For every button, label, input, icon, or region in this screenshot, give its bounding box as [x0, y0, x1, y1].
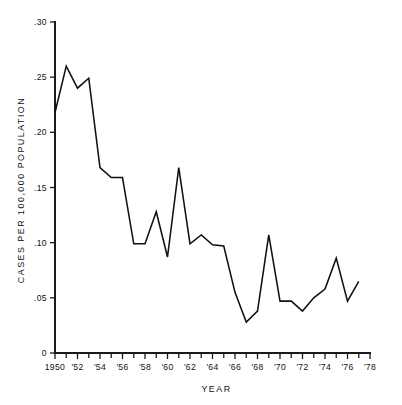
x-axis-tick-label: '60	[161, 362, 173, 372]
y-axis-tick-label: .10	[34, 238, 47, 248]
x-axis-tick-label: '52	[71, 362, 83, 372]
x-axis-tick-label: '66	[229, 362, 241, 372]
x-axis-tick-label: '58	[139, 362, 151, 372]
x-axis-tick-label: 1950	[45, 362, 66, 372]
x-axis-tick-label: '54	[94, 362, 106, 372]
x-axis-tick-label: '56	[116, 362, 128, 372]
y-axis-tick-label: .30	[34, 17, 47, 27]
chart-background	[0, 0, 402, 405]
line-chart-figure: 0.05.10.15.20.25.30 1950'52'54'56'58'60'…	[0, 0, 402, 405]
y-axis-tick-label: .20	[34, 127, 47, 137]
x-axis-tick-label: '72	[296, 362, 308, 372]
x-axis-tick-label: '76	[341, 362, 353, 372]
x-axis-title: YEAR	[201, 384, 231, 394]
y-axis-tick-label: .15	[34, 183, 47, 193]
y-axis-tick-label: .05	[34, 293, 47, 303]
y-axis-tick-label: 0	[42, 348, 47, 358]
x-axis-tick-label: '74	[319, 362, 331, 372]
y-axis-title: CASES PER 100,000 POPULATION	[16, 97, 26, 283]
y-axis-tick-label: .25	[34, 72, 47, 82]
x-axis-tick-label: '64	[206, 362, 218, 372]
x-axis-tick-label: '70	[274, 362, 286, 372]
x-axis-tick-label: '78	[364, 362, 376, 372]
x-axis-tick-label: '68	[251, 362, 263, 372]
chart-canvas: 0.05.10.15.20.25.30 1950'52'54'56'58'60'…	[0, 0, 402, 405]
x-axis-tick-label: '62	[184, 362, 196, 372]
